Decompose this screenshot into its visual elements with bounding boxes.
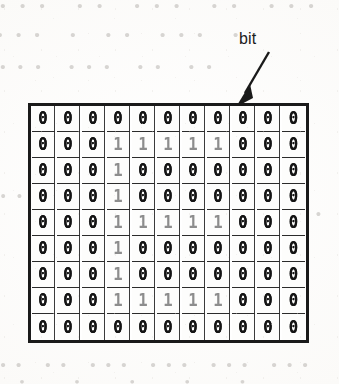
bitmap-cell: 0: [82, 314, 105, 340]
bitmap-cell: 0: [32, 184, 55, 210]
bitmap-cell: 0: [32, 236, 55, 262]
bitmap-row: 00000000000: [31, 106, 306, 132]
bitmap-cell: 0: [32, 288, 55, 314]
bitmap-cell: 0: [57, 210, 80, 236]
bitmap-cell: 0: [257, 132, 280, 158]
bitmap-cell: 0: [157, 184, 180, 210]
bitmap-cell: 0: [82, 132, 105, 158]
bitmap-cell: 0: [282, 210, 305, 236]
bitmap-cell: 0: [82, 158, 105, 184]
bitmap-cell: 1: [207, 132, 230, 158]
bleedthrough-text-top-3: ••• ••• •• ••: [0, 58, 224, 78]
bitmap-cell: 0: [57, 262, 80, 288]
bitmap-cell: 0: [232, 132, 255, 158]
bitmap-cell: 0: [57, 236, 80, 262]
bitmap-cell: 0: [107, 106, 130, 132]
bitmap-cell: 1: [107, 236, 130, 262]
bitmap-row: 00011111000: [31, 132, 306, 158]
bitmap-cell: 0: [182, 236, 205, 262]
bleedthrough-text-bottom-2: • • • • •: [19, 374, 268, 384]
bitmap-cell: 1: [132, 288, 155, 314]
bitmap-cell: 0: [82, 106, 105, 132]
bleedthrough-text-top-2: ••• • •• ••• ••: [0, 26, 270, 46]
bitmap-row: 00011111000: [31, 288, 306, 314]
bitmap-cell: 0: [132, 262, 155, 288]
bitmap-cell: 0: [207, 236, 230, 262]
bitmap-cell: 0: [257, 158, 280, 184]
bitmap-row: 00010000000: [31, 184, 306, 210]
bitmap-cell: 0: [57, 106, 80, 132]
bitmap-cell: 0: [207, 158, 230, 184]
bitmap-cell: 0: [257, 210, 280, 236]
bitmap-cell: 0: [182, 106, 205, 132]
bitmap-cell: 0: [57, 158, 80, 184]
bitmap-cell: 0: [32, 210, 55, 236]
bitmap-cell: 0: [57, 132, 80, 158]
bitmap-cell: 0: [157, 314, 180, 340]
bitmap-cell: 0: [207, 262, 230, 288]
figure-canvas: ••• •• ••• •• ••• ••• • •• ••• •• ••• ••…: [0, 0, 339, 384]
bitmap-cell: 0: [232, 314, 255, 340]
bitmap-cell: 0: [157, 262, 180, 288]
bitmap-cell: 0: [232, 262, 255, 288]
bitmap-cell: 1: [132, 210, 155, 236]
bitmap-cell: 0: [182, 262, 205, 288]
bitmap-cell: 0: [257, 106, 280, 132]
bit-callout-arrow-icon: [228, 48, 280, 108]
bitmap-cell: 0: [232, 184, 255, 210]
bitmap-cell: 0: [232, 288, 255, 314]
bitmap-cell: 0: [207, 184, 230, 210]
bitmap-cell: 0: [282, 236, 305, 262]
bitmap-cell: 0: [207, 106, 230, 132]
bitmap-cell: 1: [107, 184, 130, 210]
bitmap-cell: 0: [282, 314, 305, 340]
bitmap-cell: 0: [32, 132, 55, 158]
bitmap-cell: 1: [157, 288, 180, 314]
bitmap-cell: 1: [157, 132, 180, 158]
bitmap-cell: 0: [257, 288, 280, 314]
bitmap-cell: 0: [82, 236, 105, 262]
bitmap-cell: 0: [32, 314, 55, 340]
bitmap-cell: 0: [132, 184, 155, 210]
bitmap-cell: 1: [182, 132, 205, 158]
bitmap-cell: 0: [232, 210, 255, 236]
bitmap-cell: 0: [282, 288, 305, 314]
bitmap-cell: 0: [157, 158, 180, 184]
bitmap-cell: 0: [82, 210, 105, 236]
bitmap-cell: 0: [207, 314, 230, 340]
bitmap-cell: 0: [32, 106, 55, 132]
bitmap-cell: 0: [132, 106, 155, 132]
bitmap-cell: 0: [182, 158, 205, 184]
bitmap-cell: 0: [132, 158, 155, 184]
bitmap-row: 00010000000: [31, 262, 306, 288]
bitmap-cell: 1: [182, 288, 205, 314]
bitmap-row: 00000000000: [31, 314, 306, 340]
bleedthrough-text-top-1: ••• •• ••• •• •••: [0, 0, 328, 17]
bitmap-cell: 0: [232, 236, 255, 262]
bitmap-cell: 0: [182, 314, 205, 340]
bleedthrough-text-bottom-1: •• •• ••• ••• ••• •••: [0, 356, 318, 376]
bitmap-cell: 1: [157, 210, 180, 236]
bitmap-cell: 1: [107, 210, 130, 236]
bitmap-cell: 0: [182, 184, 205, 210]
bitmap-cell: 0: [232, 106, 255, 132]
bitmap-cell: 1: [207, 288, 230, 314]
bitmap-row: 00010000000: [31, 236, 306, 262]
bitmap-cell: 0: [257, 236, 280, 262]
bitmap-cell: 0: [282, 262, 305, 288]
bitmap-cell: 0: [57, 184, 80, 210]
bitmap-cell: 0: [132, 236, 155, 262]
bitmap-cell: 0: [282, 184, 305, 210]
bitmap-cell: 0: [157, 236, 180, 262]
bitmap-cell: 1: [107, 288, 130, 314]
bitmap-cell: 0: [257, 184, 280, 210]
bitmap-cell: 0: [282, 158, 305, 184]
bit-callout-label: bit: [239, 30, 257, 48]
bitmap-cell: 0: [32, 158, 55, 184]
bitmap-cell: 0: [57, 288, 80, 314]
bitmap-cell: 0: [282, 132, 305, 158]
bitmap-cell: 1: [207, 210, 230, 236]
bitmap-cell: 1: [132, 132, 155, 158]
bitmap-cell: 0: [82, 288, 105, 314]
bitmap-cell: 0: [57, 314, 80, 340]
